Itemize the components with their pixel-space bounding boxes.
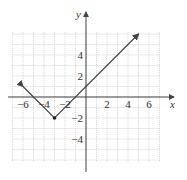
vertex-point bbox=[53, 116, 57, 120]
y-tick-label: −2 bbox=[71, 112, 83, 124]
x-axis-label: x bbox=[169, 98, 175, 110]
x-tick-label: −2 bbox=[59, 98, 71, 110]
x-tick-label: 6 bbox=[146, 98, 152, 110]
x-tick-label: 2 bbox=[104, 98, 110, 110]
y-axis-label: y bbox=[75, 8, 81, 20]
coordinate-plane: x y −6−4−2246 42−2−4 bbox=[0, 0, 187, 180]
x-tick-label: 4 bbox=[125, 98, 131, 110]
x-tick-label: −4 bbox=[38, 98, 50, 110]
y-tick-label: 2 bbox=[78, 70, 84, 82]
x-tick-labels: −6−4−2246 bbox=[17, 98, 152, 110]
y-tick-label: −4 bbox=[71, 133, 83, 145]
y-tick-label: 4 bbox=[78, 49, 84, 61]
x-tick-label: −6 bbox=[17, 98, 29, 110]
